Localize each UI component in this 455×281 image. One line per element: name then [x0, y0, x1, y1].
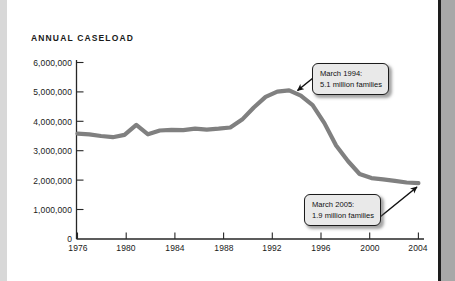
y-tick-label-4000000: 4,000,000 — [16, 117, 72, 127]
y-tick-label-2000000: 2,000,000 — [16, 176, 72, 186]
peak-callout: March 1994: 5.1 million families — [312, 63, 389, 95]
x-tick-label-2004: 2004 — [398, 243, 438, 253]
end-callout: March 2005: 1.9 million families — [304, 194, 381, 226]
x-tick-label-1996: 1996 — [301, 243, 341, 253]
peak-callout-line2: 5.1 million families — [320, 79, 382, 90]
end-callout-line1: March 2005: — [312, 199, 374, 210]
y-tick-label-3000000: 3,000,000 — [16, 146, 72, 156]
x-axis-ticks — [78, 233, 419, 240]
y-tick-label-1000000: 1,000,000 — [16, 205, 72, 215]
end-callout-line2: 1.9 million families — [312, 210, 374, 221]
y-tick-label-5000000: 5,000,000 — [16, 87, 72, 97]
caseload-line-series — [78, 90, 419, 183]
peak-callout-line1: March 1994: — [320, 68, 382, 79]
figure-root: ANNUAL CASELOAD — [0, 0, 455, 281]
x-tick-label-1988: 1988 — [204, 243, 244, 253]
x-tick-label-1984: 1984 — [155, 243, 195, 253]
x-tick-label-2000: 2000 — [350, 243, 390, 253]
x-tick-label-1976: 1976 — [58, 243, 98, 253]
y-tick-label-6000000: 6,000,000 — [16, 58, 72, 68]
x-tick-label-1980: 1980 — [106, 243, 146, 253]
x-tick-label-1992: 1992 — [252, 243, 292, 253]
